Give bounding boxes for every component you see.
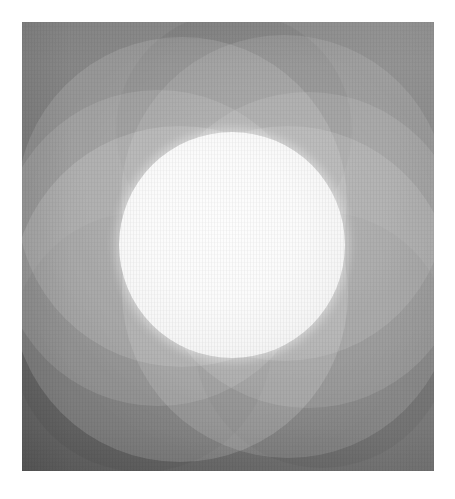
artwork-page: Overlapping Circles Composition Grayscal…: [0, 0, 455, 499]
artwork-image-area: [22, 22, 434, 471]
central-luminous-disc: [119, 132, 345, 358]
